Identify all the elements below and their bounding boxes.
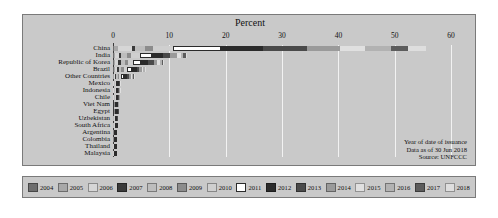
bar-row: Other Countries bbox=[113, 74, 468, 80]
bar-row: India bbox=[113, 53, 468, 59]
bar-segment-2017 bbox=[391, 46, 408, 51]
legend-swatch-2009 bbox=[177, 183, 187, 192]
legend-swatch-2016 bbox=[385, 183, 395, 192]
legend-item-2006[interactable]: 2006 bbox=[88, 183, 113, 192]
bar-segment-2013 bbox=[117, 116, 118, 121]
legend-item-2015[interactable]: 2015 bbox=[355, 183, 380, 192]
legend-label: 2013 bbox=[308, 184, 321, 191]
bar-row: Mexico bbox=[113, 81, 468, 87]
bar-row: Indonesia bbox=[113, 88, 468, 94]
legend-label: 2009 bbox=[189, 184, 202, 191]
legend-swatch-2008 bbox=[147, 183, 157, 192]
legend-label: 2016 bbox=[397, 184, 410, 191]
legend-item-2012[interactable]: 2012 bbox=[266, 183, 291, 192]
legend: 2004200520062007200820092010201120122013… bbox=[22, 176, 476, 198]
x-tick-label: 20 bbox=[222, 31, 230, 40]
stacked-bar bbox=[113, 60, 164, 65]
legend-item-2011[interactable]: 2011 bbox=[236, 183, 261, 192]
x-tick-label: 40 bbox=[335, 31, 343, 40]
bar-segment-2013 bbox=[263, 46, 306, 51]
bar-segment-2012 bbox=[116, 151, 117, 156]
x-tick-label: 0 bbox=[111, 31, 115, 40]
bar-segment-2010 bbox=[153, 46, 173, 51]
legend-swatch-2010 bbox=[207, 183, 217, 192]
bar-segment-2012 bbox=[117, 123, 118, 128]
stacked-bar bbox=[113, 74, 134, 79]
chart-screenshot: Percent 0102030405060 ChinaIndiaRepublic… bbox=[0, 0, 498, 218]
bar-segment-2018 bbox=[186, 53, 188, 58]
bar-segment-2008 bbox=[135, 46, 145, 51]
bar-segment-2014 bbox=[119, 95, 120, 100]
stacked-bar bbox=[113, 67, 146, 72]
legend-swatch-2014 bbox=[326, 183, 336, 192]
category-label: Malaysia bbox=[84, 149, 110, 157]
legend-item-2010[interactable]: 2010 bbox=[207, 183, 232, 192]
bar-segment-2011 bbox=[173, 46, 221, 51]
stacked-bar bbox=[113, 109, 118, 114]
bar-segment-2018 bbox=[145, 67, 146, 72]
legend-swatch-2013 bbox=[296, 183, 306, 192]
stacked-bar bbox=[113, 95, 120, 100]
bar-row: Republic of Korea bbox=[113, 60, 468, 66]
bar-segment-2011 bbox=[133, 60, 140, 65]
stacked-bar bbox=[113, 102, 119, 107]
chart-panel: Percent 0102030405060 ChinaIndiaRepublic… bbox=[22, 14, 476, 166]
bar-segment-2015 bbox=[340, 46, 365, 51]
bar-row: Viet Nam bbox=[113, 102, 468, 108]
legend-label: 2012 bbox=[278, 184, 291, 191]
legend-item-2004[interactable]: 2004 bbox=[28, 183, 53, 192]
legend-swatch-2015 bbox=[355, 183, 365, 192]
bar-segment-2014 bbox=[118, 102, 119, 107]
legend-item-2009[interactable]: 2009 bbox=[177, 183, 202, 192]
bar-segment-2006 bbox=[118, 46, 133, 51]
bar-row: Chile bbox=[113, 95, 468, 101]
stacked-bar bbox=[113, 81, 121, 86]
bar-segment-2013 bbox=[163, 53, 171, 58]
bar-segment-2012 bbox=[152, 53, 163, 58]
bar-segment-2014 bbox=[307, 46, 340, 51]
bar-segment-2018 bbox=[163, 60, 164, 65]
stacked-bar bbox=[113, 88, 120, 93]
x-tick-label: 30 bbox=[278, 31, 286, 40]
bar-segment-2018 bbox=[134, 74, 135, 79]
legend-label: 2015 bbox=[367, 184, 380, 191]
legend-item-2018[interactable]: 2018 bbox=[445, 183, 470, 192]
legend-swatch-2012 bbox=[266, 183, 276, 192]
annotation-line: Data as of 30 Jun 2018 bbox=[404, 146, 467, 154]
legend-swatch-2004 bbox=[28, 183, 38, 192]
bar-segment-2015 bbox=[120, 88, 121, 93]
bar-segment-2018 bbox=[408, 46, 425, 51]
annotation-line: Source: UNFCCC bbox=[404, 153, 467, 161]
legend-swatch-2006 bbox=[88, 183, 98, 192]
bar-row: Brazil bbox=[113, 67, 468, 73]
legend-label: 2005 bbox=[70, 184, 83, 191]
legend-label: 2014 bbox=[338, 184, 351, 191]
legend-item-2013[interactable]: 2013 bbox=[296, 183, 321, 192]
legend-item-2005[interactable]: 2005 bbox=[58, 183, 83, 192]
legend-item-2016[interactable]: 2016 bbox=[385, 183, 410, 192]
bar-segment-2013 bbox=[118, 109, 119, 114]
legend-item-2007[interactable]: 2007 bbox=[117, 183, 142, 192]
legend-swatch-2007 bbox=[117, 183, 127, 192]
bar-segment-2012 bbox=[141, 60, 149, 65]
bar-row: Uzbekistan bbox=[113, 116, 468, 122]
stacked-bar bbox=[113, 53, 187, 58]
stacked-bar bbox=[113, 46, 426, 51]
annotation-line: Year of date of issuance bbox=[404, 138, 467, 146]
legend-swatch-2017 bbox=[415, 183, 425, 192]
bar-row: Egypt bbox=[113, 109, 468, 115]
bar-segment-2016 bbox=[365, 46, 390, 51]
x-tick-label: 60 bbox=[447, 31, 455, 40]
legend-item-2014[interactable]: 2014 bbox=[326, 183, 351, 192]
bar-row: China bbox=[113, 46, 468, 52]
bar-segment-2015 bbox=[120, 81, 121, 86]
legend-label: 2017 bbox=[427, 184, 440, 191]
bar-segment-2011 bbox=[140, 53, 152, 58]
bar-row: South Africa bbox=[113, 123, 468, 129]
chart-annotation: Year of date of issuanceData as of 30 Ju… bbox=[404, 138, 467, 161]
legend-item-2008[interactable]: 2008 bbox=[147, 183, 172, 192]
x-tick-label: 10 bbox=[166, 31, 174, 40]
bar-segment-2012 bbox=[221, 46, 263, 51]
legend-item-2017[interactable]: 2017 bbox=[415, 183, 440, 192]
stacked-bar bbox=[113, 130, 117, 135]
